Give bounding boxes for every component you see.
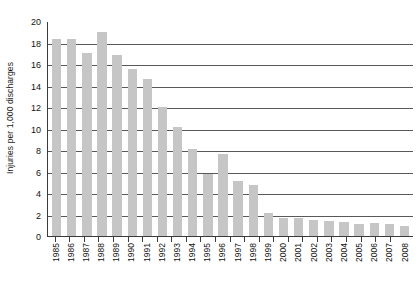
x-tick-slot (179, 237, 194, 242)
x-tick-slot (339, 237, 354, 242)
bar (67, 39, 76, 236)
y-tick-label: 8 (36, 147, 41, 156)
x-tick-slot (237, 237, 252, 242)
x-tickmark (302, 237, 303, 242)
x-tick-slot (150, 237, 165, 242)
x-tickmark (215, 237, 216, 242)
x-tick-label: 2004 (340, 243, 349, 262)
x-tick-slot (368, 237, 383, 242)
bar-slot (155, 22, 170, 236)
bar-slot (336, 22, 351, 236)
x-tick-label: 2005 (355, 243, 364, 262)
x-label-slot: 1987 (78, 243, 93, 283)
x-label-slot: 2004 (336, 243, 351, 283)
x-tick-label: 1985 (52, 243, 61, 262)
bar-slot (64, 22, 79, 236)
x-tick-slot (223, 237, 238, 242)
x-tickmark (390, 237, 391, 242)
bar-slot (397, 22, 412, 236)
bar-slot (125, 22, 140, 236)
bar (370, 223, 379, 236)
x-label-slot: 1993 (169, 243, 184, 283)
bar-slot (231, 22, 246, 236)
bar-slot (170, 22, 185, 236)
bar-series (48, 22, 413, 236)
bar (385, 224, 394, 236)
bar-slot (367, 22, 382, 236)
bar (354, 224, 363, 236)
x-tickmark (331, 237, 332, 242)
x-label-slot: 1990 (124, 243, 139, 283)
bar (97, 32, 106, 236)
x-label-slot: 1999 (260, 243, 275, 283)
x-label-slot: 2005 (351, 243, 366, 283)
x-axis-tick-labels: 1985198619871988198919901991199219931994… (47, 243, 413, 283)
x-tick-label: 1998 (249, 243, 258, 262)
x-tickmark (84, 237, 85, 242)
x-label-slot: 1994 (185, 243, 200, 283)
bar (279, 218, 288, 236)
bar-slot (79, 22, 94, 236)
x-label-slot: 1989 (109, 243, 124, 283)
x-tick-label: 1990 (127, 243, 136, 262)
bar (294, 218, 303, 236)
x-tickmark (259, 237, 260, 242)
bar-slot (246, 22, 261, 236)
x-tick-label: 1987 (82, 243, 91, 262)
x-tick-label: 1995 (203, 243, 212, 262)
x-label-slot: 1986 (63, 243, 78, 283)
x-tick-slot (135, 237, 150, 242)
x-tick-label: 1997 (234, 243, 243, 262)
x-tick-label: 1996 (218, 243, 227, 262)
x-tick-slot (383, 237, 398, 242)
y-axis-tick-labels: 02468101214161820 (18, 0, 44, 250)
x-tickmark (200, 237, 201, 242)
y-tick-label: 20 (31, 18, 41, 27)
x-tick-label: 2003 (325, 243, 334, 262)
bar (128, 69, 137, 236)
x-tick-slot (194, 237, 209, 242)
x-tick-slot (92, 237, 107, 242)
x-tick-slot (121, 237, 136, 242)
x-tick-label: 2008 (401, 243, 410, 262)
bar (233, 181, 242, 236)
bar-slot (185, 22, 200, 236)
x-tick-label: 2006 (370, 243, 379, 262)
x-label-slot: 2006 (367, 243, 382, 283)
x-tick-label: 2001 (294, 243, 303, 262)
x-tickmark (55, 237, 56, 242)
bar-slot (140, 22, 155, 236)
x-label-slot: 1998 (245, 243, 260, 283)
x-tickmark (69, 237, 70, 242)
bar (400, 226, 409, 236)
x-tickmark (273, 237, 274, 242)
x-tick-slot (63, 237, 78, 242)
y-tick-label: 12 (31, 104, 41, 113)
bar-slot (382, 22, 397, 236)
bar (52, 39, 61, 236)
x-tick-slot (398, 237, 413, 242)
x-tickmark (244, 237, 245, 242)
bar-slot (352, 22, 367, 236)
x-tickmark (346, 237, 347, 242)
x-tickmark (142, 237, 143, 242)
bar-slot (276, 22, 291, 236)
x-tickmark (317, 237, 318, 242)
y-axis-title: Injuries per 1,000 discharges (2, 0, 18, 236)
x-tick-slot (77, 237, 92, 242)
x-tick-label: 2002 (310, 243, 319, 262)
bar-slot (306, 22, 321, 236)
bar (324, 221, 333, 236)
bar-chart: Injuries per 1,000 discharges 0246810121… (0, 0, 420, 285)
bar (158, 107, 167, 236)
x-label-slot: 1995 (200, 243, 215, 283)
x-label-slot: 1997 (230, 243, 245, 283)
bar (249, 185, 258, 236)
x-tickmark (230, 237, 231, 242)
bar (203, 174, 212, 236)
bar-slot (200, 22, 215, 236)
x-label-slot: 2000 (276, 243, 291, 283)
x-label-slot: 2001 (291, 243, 306, 283)
bar-slot (49, 22, 64, 236)
bar-slot (291, 22, 306, 236)
